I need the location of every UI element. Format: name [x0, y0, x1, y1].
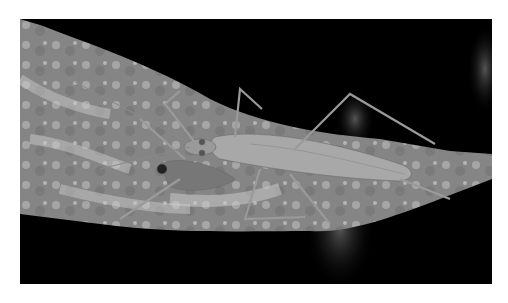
insect-photo [20, 19, 492, 284]
